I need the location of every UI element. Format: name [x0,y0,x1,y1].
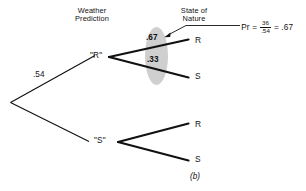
pr-symbol: Pr [241,23,250,32]
figure-caption: (b) [190,172,200,181]
column-header-line-2: Nature [166,15,222,23]
leaf-s-lower: S [195,155,201,164]
node-prediction-s: "S" [94,136,106,145]
fraction-numerator: 36 [261,20,270,27]
fraction-denominator: .54 [260,28,271,35]
equals-sign-second: = [274,23,279,32]
probability-result: .67 [281,23,293,32]
leaf-r-lower: R [195,120,201,129]
edge-prediction-s-to-leaf-s [118,142,189,161]
probability-fraction: 36 .54 [260,20,271,35]
probability-annotation: Pr = 36 .54 = .67 [240,20,294,35]
probability-tree-figure: Weather Prediction State of Nature "R" "… [0,0,306,191]
column-header-line-2: Prediction [64,15,120,23]
annotation-arrowhead-icon [164,33,170,38]
edge-prediction-s-to-leaf-r [118,124,189,143]
edge-label-r-to-s: .33 [147,55,159,64]
edge-root-to-prediction-r [11,56,96,103]
leaf-r-upper: R [195,36,201,45]
annotation-leader-line [168,26,240,36]
edge-root-to-prediction-s [11,103,90,142]
node-prediction-r: "R" [90,51,102,60]
leaf-s-upper: S [195,72,201,81]
column-header-state-of-nature: State of Nature [166,7,222,24]
equals-sign-first: = [252,23,257,32]
edge-label-root-upper: .54 [33,70,45,79]
column-header-weather-prediction: Weather Prediction [64,7,120,24]
edge-label-r-to-r: .67 [146,33,158,42]
